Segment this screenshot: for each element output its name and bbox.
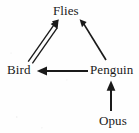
node-label-penguin: Penguin [90, 63, 133, 76]
node-label-opus: Opus [99, 114, 127, 127]
edge-penguin-flies [80, 19, 106, 60]
node-label-bird: Bird [7, 63, 31, 76]
node-label-flies: Flies [53, 4, 79, 17]
diagram-canvas: Flies Bird Penguin Opus [0, 0, 139, 133]
edge-bird-flies [28, 19, 58, 63]
edge-opus-penguin [107, 81, 116, 111]
edge-penguin-bird [37, 67, 88, 76]
